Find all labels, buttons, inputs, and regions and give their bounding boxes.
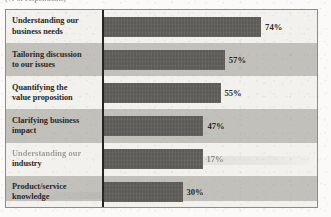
row-label-line2: to our issues bbox=[12, 60, 102, 70]
caption-fragment: (% of respondents) bbox=[5, 0, 125, 7]
chart-row: Quantifying the value proposition 55% bbox=[6, 76, 317, 109]
row-label-line1: Product/service bbox=[12, 182, 102, 192]
bar-value-label: 30% bbox=[187, 187, 204, 197]
chart-row: Understanding our business needs 74% bbox=[6, 10, 317, 43]
row-label-line1: Quantifying the bbox=[12, 83, 102, 93]
bar bbox=[103, 182, 183, 202]
bar bbox=[103, 149, 203, 169]
row-label-line2: knowledge bbox=[12, 192, 102, 202]
bar-value-label: 17% bbox=[207, 154, 224, 164]
bar-track: 57% bbox=[103, 43, 317, 76]
chart-row: Product/service knowledge 30% bbox=[6, 176, 317, 208]
row-label-line2: industry bbox=[12, 159, 102, 169]
bar-chart: Understanding our business needs 74% Tai… bbox=[5, 9, 318, 208]
caption-fragment-text: (% of respondents) bbox=[5, 0, 125, 3]
row-label: Product/service knowledge bbox=[12, 176, 102, 208]
bar bbox=[103, 50, 225, 70]
bar-track: 30% bbox=[103, 176, 317, 208]
chart-row: Clarifying business impact 47% bbox=[6, 109, 317, 142]
bar-value-label: 74% bbox=[265, 22, 282, 32]
bar-value-label: 55% bbox=[225, 88, 242, 98]
bar-value-label: 47% bbox=[207, 121, 224, 131]
row-label-line1: Understanding our bbox=[12, 16, 102, 26]
chart-row: Tailoring discussion to our issues 57% bbox=[6, 43, 317, 76]
bar-track: 74% bbox=[103, 10, 317, 43]
bar-track: 17% bbox=[103, 143, 317, 176]
row-label: Quantifying the value proposition bbox=[12, 76, 102, 109]
bar bbox=[103, 116, 203, 136]
scanned-page: (% of respondents) Understanding our bus… bbox=[0, 0, 331, 217]
vertical-axis-line bbox=[102, 10, 104, 207]
row-label: Understanding our business needs bbox=[12, 10, 102, 43]
row-label-line1: Clarifying business bbox=[12, 116, 102, 126]
row-label-line2: business needs bbox=[12, 27, 102, 37]
row-label-line2: impact bbox=[12, 126, 102, 136]
row-label: Tailoring discussion to our issues bbox=[12, 43, 102, 76]
bar bbox=[103, 83, 221, 103]
bar bbox=[103, 17, 261, 37]
row-label: Understanding our industry bbox=[12, 143, 102, 176]
bar-track: 55% bbox=[103, 76, 317, 109]
row-label: Clarifying business impact bbox=[12, 109, 102, 142]
bar-value-label: 57% bbox=[229, 55, 246, 65]
row-label-line1: Understanding our bbox=[12, 149, 102, 159]
chart-row: Understanding our industry 17% bbox=[6, 143, 317, 176]
row-label-line1: Tailoring discussion bbox=[12, 50, 102, 60]
row-label-line2: value proposition bbox=[12, 93, 102, 103]
bar-track: 47% bbox=[103, 109, 317, 142]
